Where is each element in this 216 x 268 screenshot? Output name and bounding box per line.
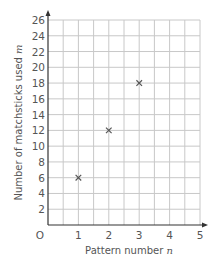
y-axis-label: Number of matchsticks used m <box>13 44 24 200</box>
y-tick-label: 26 <box>32 14 46 26</box>
x-tick-label: 4 <box>166 229 173 241</box>
y-tick-label: 4 <box>38 187 45 199</box>
y-axis-label-text: Number of matchsticks used <box>13 54 24 201</box>
y-tick-label: 22 <box>32 46 45 58</box>
y-tick-label: 2 <box>38 203 45 215</box>
x-tick-labels: 12345 <box>75 229 203 241</box>
x-tick-label: 1 <box>75 229 82 241</box>
y-axis-arrow-icon <box>46 10 51 16</box>
y-tick-label: 24 <box>32 30 46 42</box>
y-tick-label: 10 <box>32 140 45 152</box>
y-tick-label: 16 <box>32 93 46 105</box>
axes <box>46 10 209 228</box>
x-axis-variable: n <box>166 245 172 256</box>
y-tick-label: 14 <box>32 109 46 121</box>
y-tick-label: 20 <box>32 61 45 73</box>
x-tick-label: 5 <box>197 229 204 241</box>
x-axis-arrow-icon <box>202 223 208 228</box>
y-tick-label: 18 <box>32 77 45 89</box>
y-axis-variable: m <box>13 44 24 53</box>
origin-label: O <box>36 229 44 241</box>
y-tick-labels: 2468101214161820222426 <box>32 14 46 215</box>
y-tick-label: 12 <box>32 124 45 136</box>
x-tick-label: 2 <box>105 229 112 241</box>
x-axis-label-text: Pattern number <box>85 245 166 256</box>
y-tick-label: 6 <box>38 172 45 184</box>
x-axis-label: Pattern number n <box>85 245 173 256</box>
y-tick-label: 8 <box>38 156 45 168</box>
scatter-chart: 2468101214161820222426 12345 O Pattern n… <box>0 0 216 268</box>
x-tick-label: 3 <box>136 229 143 241</box>
grid-lines <box>48 20 200 225</box>
